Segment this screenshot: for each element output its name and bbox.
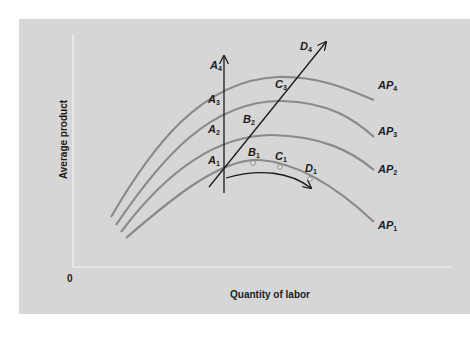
- label-d1: D1: [305, 162, 317, 175]
- label-ap1: AP1: [378, 219, 397, 232]
- marker-d1: [308, 177, 313, 182]
- label-b2: B2: [243, 113, 255, 126]
- label-c1: C1: [275, 150, 287, 163]
- y-axis-label: Average product: [58, 95, 69, 185]
- label-a2: A2: [208, 123, 220, 136]
- marker-c1: [278, 165, 283, 170]
- label-a4: A4: [210, 59, 222, 72]
- label-ap4: AP4: [378, 79, 397, 92]
- label-d4: D4: [300, 40, 312, 53]
- curve-ap1: [126, 160, 374, 238]
- marker-b1: [251, 161, 256, 166]
- label-ap2: AP2: [378, 163, 397, 176]
- label-ap3: AP3: [378, 125, 397, 138]
- label-a3: A3: [208, 93, 220, 106]
- label-b1: B1: [248, 146, 260, 159]
- curved-arrow: [226, 173, 311, 188]
- label-c3: C3: [275, 78, 287, 91]
- label-a1: A1: [208, 154, 220, 167]
- x-axis-label: Quantity of labor: [230, 289, 310, 300]
- origin-label: 0: [67, 273, 73, 284]
